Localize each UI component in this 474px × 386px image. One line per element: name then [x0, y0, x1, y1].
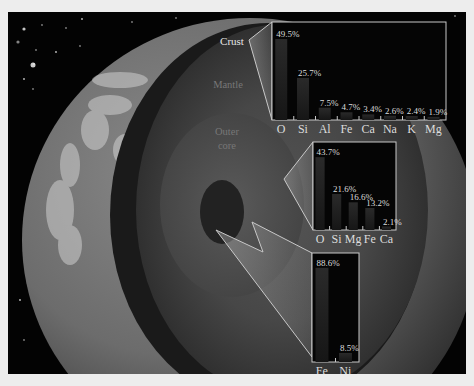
value-label: 2.6%: [385, 106, 404, 116]
bar-o: [275, 39, 287, 120]
bar-si: [332, 194, 341, 230]
value-label: 1.9%: [429, 107, 448, 117]
value-label: 49.5%: [276, 29, 300, 39]
bar-ca: [362, 114, 374, 120]
bar-mg: [349, 202, 358, 230]
value-label: 43.7%: [316, 147, 340, 157]
crust-label: Crust: [220, 35, 244, 47]
outer-core-label: Outer: [215, 126, 239, 137]
category-label: K: [407, 122, 416, 136]
mantle-composition-chart: 43.7%O21.6%Si16.6%Mg13.2%Fe2.1%Ca: [313, 142, 402, 246]
earth-composition-figure: Crust Mantle Outer core 49.5%O25.7%Si7.5…: [8, 12, 466, 374]
bar-fe: [365, 208, 374, 230]
value-label: 8.5%: [340, 343, 359, 353]
bar-ca: [382, 227, 391, 231]
category-label: Ni: [339, 364, 352, 374]
value-label: 7.5%: [320, 98, 339, 108]
category-label: Mg: [425, 122, 442, 136]
value-label: 4.7%: [342, 102, 361, 112]
value-label: 13.2%: [366, 198, 390, 208]
bar-ni: [339, 353, 352, 362]
value-label: 2.4%: [407, 106, 426, 116]
bar-al: [319, 108, 331, 120]
bar-mg: [428, 117, 440, 120]
figure-canvas: Crust Mantle Outer core 49.5%O25.7%Si7.5…: [8, 12, 466, 374]
crust-composition-chart: 49.5%O25.7%Si7.5%Al4.7%Fe3.4%Ca2.6%Na2.4…: [272, 22, 448, 136]
category-label: O: [277, 122, 286, 136]
value-label: 25.7%: [298, 68, 322, 78]
category-label: Na: [383, 122, 398, 136]
bar-o: [315, 157, 324, 230]
category-label: Si: [298, 122, 309, 136]
bar-si: [297, 78, 309, 120]
category-label: O: [316, 232, 325, 246]
mantle-label: Mantle: [213, 79, 243, 90]
category-label: Fe: [364, 232, 376, 246]
bar-fe: [316, 268, 329, 362]
value-label: 3.4%: [363, 104, 382, 114]
category-label: Ca: [380, 232, 394, 246]
category-label: Ca: [361, 122, 375, 136]
category-label: Al: [319, 122, 332, 136]
category-label: Si: [332, 232, 343, 246]
category-label: Fe: [316, 364, 328, 374]
outer-core-label-2: core: [218, 140, 236, 151]
category-label: Mg: [345, 232, 362, 246]
value-label: 2.1%: [383, 217, 402, 227]
bar-k: [406, 116, 418, 120]
bar-fe: [341, 112, 353, 120]
category-label: Fe: [340, 122, 352, 136]
core-composition-chart: 88.6%Fe8.5%Ni: [312, 253, 359, 374]
value-label: 88.6%: [317, 258, 341, 268]
bar-na: [384, 116, 396, 120]
